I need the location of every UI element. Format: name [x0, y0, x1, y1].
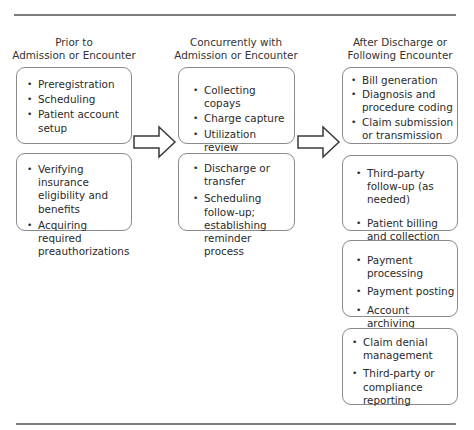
bullet-icon: •	[193, 128, 198, 141]
list-item: •Bill generation	[350, 74, 455, 87]
list-item: •Preregistration	[26, 78, 125, 91]
right-arrow-icon	[132, 125, 178, 159]
column-2-header: Concurrently with Admission or Encounter	[170, 36, 302, 62]
bullet-icon: •	[356, 304, 361, 317]
bullet-icon: •	[356, 285, 361, 298]
column-1-header-line2: Admission or Encounter	[10, 49, 138, 62]
bullet-icon: •	[356, 254, 361, 267]
column-3-box-1: •Bill generation •Diagnosis and procedur…	[342, 67, 458, 144]
list-item: •Utilization review	[192, 128, 290, 154]
list-item: •Collecting copays	[192, 84, 290, 110]
bullet-icon: •	[352, 367, 357, 380]
list-item: •Diagnosis and procedure coding	[350, 88, 455, 114]
bullet-icon: •	[27, 163, 32, 176]
list-item: •Payment processing	[355, 254, 455, 280]
bullet-icon: •	[351, 88, 356, 101]
bullet-icon: •	[193, 192, 198, 205]
bullet-icon: •	[356, 167, 361, 180]
column-1-header-line1: Prior to	[10, 36, 138, 49]
list-item: •Verifying insurance eligibility and ben…	[26, 163, 127, 216]
list-item: •Patient account setup	[26, 108, 125, 134]
list-item: •Claim denial management	[351, 336, 455, 362]
list-item: •Payment posting	[355, 285, 455, 298]
list-item: •Account archiving	[355, 304, 455, 330]
bullet-icon: •	[351, 116, 356, 129]
column-3-box-2: •Third-party follow-up (as needed) •Pati…	[342, 155, 458, 231]
list-item: •Charge capture	[192, 112, 290, 125]
bullet-icon: •	[193, 162, 198, 175]
list-item: •Third-party follow-up (as needed)	[355, 167, 455, 207]
column-3-box-3: •Payment processing •Payment posting •Ac…	[342, 240, 458, 317]
bullet-icon: •	[352, 336, 357, 349]
column-2-box-2: •Discharge or transfer •Scheduling follo…	[178, 153, 295, 231]
top-rule	[14, 14, 456, 16]
list-item: •Scheduling follow-up; establishing remi…	[192, 192, 290, 258]
bottom-rule	[16, 423, 456, 425]
list-item: •Discharge or transfer	[192, 162, 290, 188]
column-3-box-4: •Claim denial management •Third-party or…	[342, 328, 458, 405]
bullet-icon: •	[27, 108, 32, 121]
bullet-icon: •	[356, 217, 361, 230]
column-1-box-1: •Preregistration •Scheduling •Patient ac…	[16, 67, 132, 144]
list-item: •Scheduling	[26, 93, 125, 106]
column-3-header-line2: Following Encounter	[336, 49, 464, 62]
column-3-header-line1: After Discharge or	[336, 36, 464, 49]
bullet-icon: •	[27, 78, 32, 91]
column-3-header: After Discharge or Following Encounter	[336, 36, 464, 62]
bullet-icon: •	[351, 74, 356, 87]
bullet-icon: •	[27, 93, 32, 106]
list-item: •Claim submission or transmission	[350, 116, 455, 142]
column-2-header-line1: Concurrently with	[170, 36, 302, 49]
column-2-header-line2: Admission or Encounter	[170, 49, 302, 62]
bullet-icon: •	[193, 84, 198, 97]
list-item: •Third-party or compliance reporting	[351, 367, 455, 407]
column-1-box-2: •Verifying insurance eligibility and ben…	[16, 153, 132, 231]
column-2-box-1: •Collecting copays •Charge capture •Util…	[178, 67, 295, 144]
right-arrow-icon	[296, 125, 342, 159]
column-1-header: Prior to Admission or Encounter	[10, 36, 138, 62]
list-item: •Acquiring required preauthorizations	[26, 219, 127, 259]
bullet-icon: •	[193, 112, 198, 125]
bullet-icon: •	[27, 219, 32, 232]
